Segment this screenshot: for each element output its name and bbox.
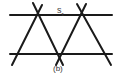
s-tau-label: sτ — [57, 5, 64, 17]
figure-caption: (b) — [53, 64, 63, 73]
lattice-line — [77, 4, 111, 65]
